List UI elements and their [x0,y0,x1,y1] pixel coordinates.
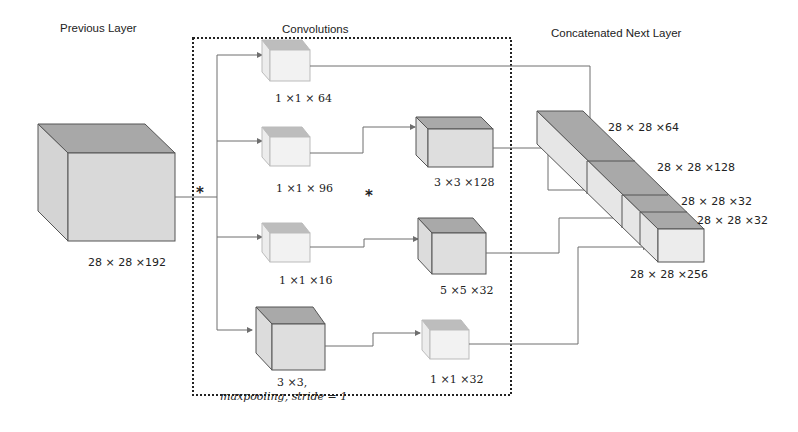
output-block1-label: 28 × 28 ×64 [608,121,679,134]
input-layer-label: 28 × 28 ×192 [88,256,166,269]
output-block2-label: 28 × 28 ×128 [657,161,735,174]
branch3-5x5-cube [418,218,486,274]
convolution-operator-2: * [365,187,373,205]
title-previous-layer: Previous Layer [60,22,137,34]
edge-branch3-stage1-to-stage2 [310,239,418,247]
branch3-stage2-label: 5 ×5 ×32 [440,284,493,297]
branch3-stage1-label: 1 ×1 ×16 [279,274,332,287]
edge-branch2-stage1-to-stage2 [310,127,415,153]
branch4-stage1-label-line2: maxpooling, stride = 1 [220,390,347,403]
edge-branch4-to-output [469,247,648,344]
inception-module-diagram: Previous Layer Convolutions Concatenated… [0,0,798,432]
convolution-operator-1: * [196,184,204,202]
branch4-stage1-label-line1: 3 ×3, [277,376,307,389]
branch3-1x1-cube [262,223,310,262]
title-convolutions: Convolutions [282,23,349,35]
input-layer-cube [38,124,175,241]
branch1-1x1-cube [262,40,310,81]
branch4-stage2-label: 1 ×1 ×32 [430,373,483,386]
branch2-3x3-cube [416,117,493,167]
output-front-face [658,229,704,262]
output-block4-label: 28 × 28 ×32 [697,214,768,227]
branch2-stage2-label: 3 ×3 ×128 [434,176,494,189]
title-concatenated-next-layer: Concatenated Next Layer [551,27,682,39]
output-block3-label: 28 × 28 ×32 [681,195,752,208]
output-total-label: 28 × 28 ×256 [630,268,708,281]
input-cube-front [68,153,175,241]
edge-branch4-stage1-to-stage2 [325,333,420,346]
branch4-maxpool-cube [256,307,325,370]
branch1-stage1-label: 1 ×1 × 64 [275,92,332,105]
branch4-1x1-cube [422,320,469,359]
branch2-1x1-cube [262,127,310,166]
branch2-stage1-label: 1 ×1 × 96 [276,182,333,195]
edge-branch3-to-output [486,218,620,253]
